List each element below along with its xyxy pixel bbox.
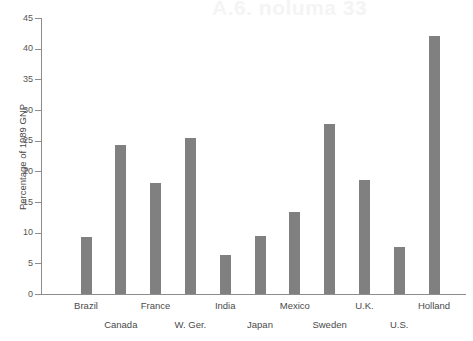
- bar: [429, 36, 440, 294]
- y-tick-label-wrap: 5: [0, 259, 33, 268]
- y-tick-label: 45: [3, 14, 33, 23]
- x-axis-category-label: W. Ger.: [175, 319, 207, 330]
- bar: [150, 183, 161, 294]
- bar: [394, 247, 405, 294]
- x-axis-category-label: India: [215, 300, 236, 311]
- y-tick-label-wrap: 10: [0, 228, 33, 237]
- bar: [289, 212, 300, 294]
- x-axis-category-label: Canada: [104, 319, 137, 330]
- bars-container: [41, 18, 466, 294]
- y-tick-label-wrap: 0: [0, 290, 33, 299]
- x-axis-category-label: Sweden: [312, 319, 346, 330]
- x-axis-category-label: Mexico: [280, 300, 310, 311]
- bar: [324, 124, 335, 295]
- y-tick-label-wrap: 25: [0, 136, 33, 145]
- x-axis-category-label: Holland: [418, 300, 450, 311]
- bar: [220, 255, 231, 294]
- bar-chart: A.6. noluma 33 Percentage of 1989 GNP 05…: [0, 0, 473, 341]
- bar: [185, 138, 196, 294]
- x-axis-category-label: U.K.: [355, 300, 373, 311]
- y-tick-label: 0: [3, 290, 33, 299]
- y-tick-label: 30: [3, 106, 33, 115]
- y-tick-label-wrap: 30: [0, 106, 33, 115]
- x-axis-category-label: Japan: [247, 319, 273, 330]
- y-tick-label: 15: [3, 198, 33, 207]
- y-tick-label-wrap: 35: [0, 75, 33, 84]
- y-tick-label-wrap: 45: [0, 14, 33, 23]
- y-tick-label: 20: [3, 167, 33, 176]
- x-axis-category-label: U.S.: [390, 319, 408, 330]
- bar: [81, 237, 92, 294]
- y-tick-label: 5: [3, 259, 33, 268]
- y-tick-label: 40: [3, 44, 33, 53]
- background-bleed-text: A.6. noluma 33: [212, 0, 367, 20]
- y-tick-label: 10: [3, 228, 33, 237]
- y-tick-label: 35: [3, 75, 33, 84]
- y-tick-label-wrap: 20: [0, 167, 33, 176]
- y-tick-mark: [35, 294, 41, 295]
- x-axis-category-label: Brazil: [74, 300, 98, 311]
- bar: [359, 180, 370, 294]
- x-axis-category-label: France: [141, 300, 171, 311]
- bar: [115, 145, 126, 294]
- bar: [255, 236, 266, 294]
- y-tick-label-wrap: 40: [0, 44, 33, 53]
- x-axis-line: [41, 294, 466, 295]
- y-tick-label-wrap: 15: [0, 198, 33, 207]
- y-tick-label: 25: [3, 136, 33, 145]
